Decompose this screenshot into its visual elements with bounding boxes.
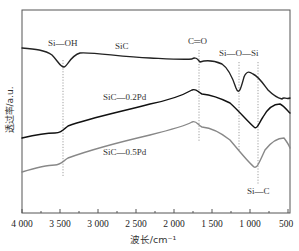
x-tick-4000: 4 000	[11, 219, 33, 229]
annotation-si-o-si: Si—O—Si	[219, 48, 259, 58]
x-tick-3500: 3 500	[49, 219, 71, 229]
x-ticks	[22, 209, 288, 213]
x-tick-3000: 3 000	[87, 219, 109, 229]
label-sic-0-2pd: SiC—0.2Pd	[103, 92, 147, 102]
x-tick-500: 500	[279, 219, 294, 229]
annotation-si-oh: Si—OH	[48, 38, 78, 48]
label-sic-0-5pd: SiC—0.5Pd	[103, 147, 147, 157]
x-tick-2500: 2 500	[125, 219, 147, 229]
series-sic-0-2pd	[22, 89, 290, 138]
ftir-chart: SiC SiC—0.2Pd SiC—0.5Pd Si—OH C═O Si—O—S…	[0, 0, 299, 251]
y-axis-label: 透过率/a.u.	[4, 87, 15, 134]
x-tick-1500: 1 500	[201, 219, 223, 229]
annotation-si-c: Si—C	[247, 186, 270, 196]
x-tick-labels: 4 000 3 500 3 000 2 500 2 000 1 500 1 00…	[11, 219, 293, 229]
x-tick-2000: 2 000	[163, 219, 185, 229]
series-sic-0-5pd	[22, 122, 290, 172]
x-tick-1000: 1 000	[239, 219, 261, 229]
label-sic: SiC	[115, 41, 129, 51]
annotation-c-o: C═O	[188, 36, 207, 46]
x-axis-label: 波长/cm⁻¹	[130, 234, 177, 245]
annotation-lines	[63, 50, 258, 184]
